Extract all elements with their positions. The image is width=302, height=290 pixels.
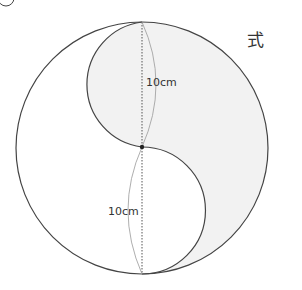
center-dot [140,145,144,149]
shaded-region [87,22,268,274]
side-label: 式 [247,26,264,51]
lower-length-label: 10cm [108,205,139,218]
problem-marker-circle [0,0,14,6]
upper-length-label: 10cm [146,76,177,89]
